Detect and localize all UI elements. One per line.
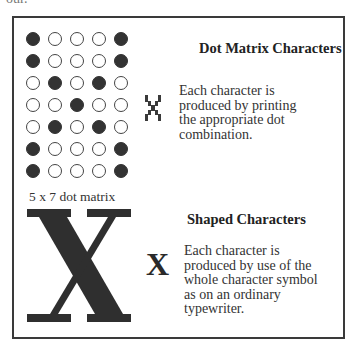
top-text-fragment: our. bbox=[6, 0, 27, 7]
dot-empty bbox=[92, 32, 106, 46]
dot-empty bbox=[26, 98, 40, 112]
description-line: Each character is bbox=[184, 244, 318, 259]
description-line: whole character symbol bbox=[184, 273, 318, 288]
dot-filled bbox=[48, 120, 62, 134]
dot-empty bbox=[114, 76, 128, 90]
dot-filled bbox=[26, 164, 40, 178]
dot-matrix-heading: Dot Matrix Characters bbox=[199, 40, 342, 57]
dot-filled bbox=[114, 54, 128, 68]
dot-empty bbox=[70, 120, 84, 134]
shaped-description: Each character is produced by use of the… bbox=[184, 244, 318, 317]
dot-filled bbox=[26, 32, 40, 46]
dot-filled bbox=[92, 76, 106, 90]
dot-empty bbox=[70, 32, 84, 46]
dot-filled bbox=[92, 120, 106, 134]
description-line: typewriter. bbox=[184, 302, 318, 317]
description-line: produced by use of the bbox=[184, 259, 318, 274]
dot-empty bbox=[114, 98, 128, 112]
description-line: combination. bbox=[179, 128, 296, 143]
dot-empty bbox=[48, 98, 62, 112]
dot-empty bbox=[92, 164, 106, 178]
dot-matrix-x-icon bbox=[144, 94, 162, 122]
dot-empty bbox=[48, 164, 62, 178]
dot-filled bbox=[26, 54, 40, 68]
dot-empty bbox=[26, 76, 40, 90]
dot-empty bbox=[92, 54, 106, 68]
dot-empty bbox=[92, 142, 106, 156]
dot-empty bbox=[92, 98, 106, 112]
description-line: as on an ordinary bbox=[184, 288, 318, 303]
dot-empty bbox=[48, 54, 62, 68]
dot-filled bbox=[114, 142, 128, 156]
dot-empty bbox=[70, 54, 84, 68]
shaped-x-sample: X bbox=[146, 248, 169, 280]
dot-filled bbox=[114, 164, 128, 178]
big-shaped-x-glyph bbox=[25, 209, 135, 322]
dot-empty bbox=[70, 142, 84, 156]
dot-filled bbox=[26, 142, 40, 156]
dot-empty bbox=[70, 76, 84, 90]
dot-matrix-description: Each character is produced by printing t… bbox=[179, 84, 296, 142]
dot-empty bbox=[114, 120, 128, 134]
description-line: the appropriate dot bbox=[179, 113, 296, 128]
dot-empty bbox=[48, 142, 62, 156]
dot-filled bbox=[114, 32, 128, 46]
shaped-heading: Shaped Characters bbox=[187, 211, 306, 228]
dot-empty bbox=[26, 120, 40, 134]
description-line: produced by printing bbox=[179, 99, 296, 114]
matrix-caption: 5 x 7 dot matrix bbox=[29, 189, 115, 205]
dot-filled bbox=[70, 98, 84, 112]
dot-empty bbox=[48, 32, 62, 46]
dot-empty bbox=[70, 164, 84, 178]
dot-filled bbox=[48, 76, 62, 90]
description-line: Each character is bbox=[179, 84, 296, 99]
